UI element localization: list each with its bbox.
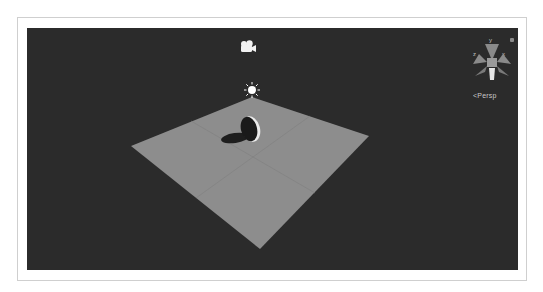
scene-viewport[interactable]: y z x <Persp	[27, 28, 518, 270]
sun-icon[interactable]	[244, 82, 260, 98]
gizmo-neg-y-cone[interactable]	[489, 68, 495, 80]
gizmo-neg-z-cone[interactable]	[497, 66, 509, 76]
gizmo-x-cone[interactable]	[497, 54, 511, 64]
gizmo-y-cone[interactable]	[485, 44, 499, 58]
gizmo-axis-y-label: y	[489, 37, 492, 43]
gizmo-center-cube[interactable]	[487, 58, 497, 67]
projection-toggle[interactable]: <Persp	[473, 92, 497, 99]
gizmo-axis-z-label: z	[473, 51, 476, 57]
scene-canvas[interactable]	[27, 28, 518, 270]
lock-icon[interactable]	[510, 38, 514, 42]
camera-icon[interactable]	[241, 40, 256, 52]
gizmo-neg-x-cone[interactable]	[475, 66, 487, 76]
